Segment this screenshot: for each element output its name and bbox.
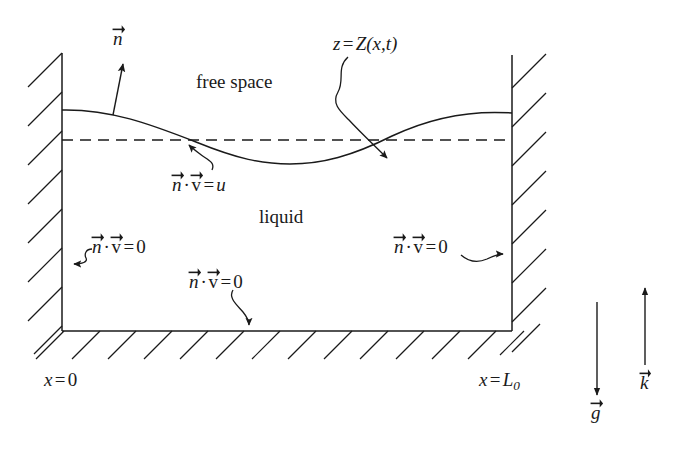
- liquid-label: liquid: [259, 207, 303, 226]
- right-bc-leader: [461, 254, 503, 261]
- container-walls: [62, 53, 512, 331]
- figure-root: free space liquid n z=Z(x,t) n: [0, 0, 675, 458]
- kinematic-bc-label: n · v =u: [172, 175, 226, 194]
- vector-v-glyph: v: [209, 272, 219, 291]
- vector-v-glyph: v: [414, 237, 424, 256]
- vector-n-glyph: n: [189, 272, 199, 291]
- subscript-zero: 0: [513, 378, 520, 393]
- kinematic-bc-leader: [189, 145, 213, 170]
- vector-n-glyph: n: [394, 237, 404, 256]
- dot-operator: ·: [404, 236, 414, 257]
- left-wall-bc-label: n · v =0: [92, 237, 146, 256]
- vector-k-glyph: k: [640, 373, 648, 392]
- bottom-wall-bc-label: n · v =0: [189, 272, 243, 291]
- surface-normal-arrow: [113, 64, 123, 115]
- surface-elevation-label: z=Z(x,t): [333, 34, 397, 53]
- left-boundary-coordinate-label: x=0: [44, 370, 77, 389]
- right-boundary-coordinate-label: x=L0: [479, 370, 520, 392]
- dot-operator: ·: [102, 236, 112, 257]
- right-wall-hatching: [512, 54, 546, 352]
- free-space-label: free space: [196, 72, 272, 91]
- surface-normal-label: n: [113, 29, 123, 48]
- right-wall-bc-label: n · v =0: [394, 237, 448, 256]
- vector-g-glyph: g: [591, 403, 601, 422]
- vector-n-glyph: n: [92, 237, 102, 256]
- dot-operator: ·: [182, 174, 192, 195]
- vector-v-glyph: v: [112, 237, 122, 256]
- free-surface-wave-curve: [62, 110, 512, 164]
- left-bc-leader: [74, 249, 92, 264]
- vector-n-glyph: n: [172, 175, 182, 194]
- bottom-wall-hatching: [36, 331, 524, 359]
- dot-operator: ·: [199, 271, 209, 292]
- left-wall-hatching: [28, 53, 62, 354]
- vector-n-glyph: n: [113, 29, 123, 48]
- gravity-vector-label: g: [591, 403, 601, 422]
- k-vector-label: k: [640, 373, 648, 392]
- diagram-canvas: [0, 0, 675, 458]
- bottom-bc-leader: [232, 290, 249, 325]
- vector-v-glyph: v: [192, 175, 202, 194]
